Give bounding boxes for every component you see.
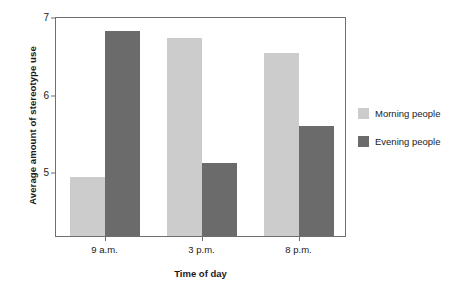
bar: [105, 31, 140, 236]
x-tick-label: 9 a.m.: [91, 245, 117, 255]
x-tick-label: 8 p.m.: [285, 245, 311, 255]
legend-item: Evening people: [358, 136, 458, 147]
y-tick-label: 6: [43, 91, 49, 101]
x-tick-mark: [299, 236, 300, 241]
y-tick-label: 7: [43, 13, 49, 23]
bar: [299, 126, 334, 236]
y-tick-label: 5: [43, 168, 49, 178]
legend-swatch-icon: [358, 136, 369, 147]
legend-swatch-icon: [358, 108, 369, 119]
x-tick-mark: [202, 236, 203, 241]
bar: [70, 177, 105, 236]
bars-layer: [56, 18, 345, 236]
bar: [202, 163, 237, 236]
plot-area: 765 9 a.m.3 p.m.8 p.m.: [55, 17, 346, 237]
legend-label: Evening people: [375, 137, 441, 147]
x-tick-mark: [105, 236, 106, 241]
x-tick-label: 3 p.m.: [188, 245, 214, 255]
bar: [167, 38, 202, 236]
bar: [264, 53, 299, 236]
y-axis-title: Average amount of stereotype use: [27, 16, 38, 236]
legend-label: Morning people: [375, 109, 441, 119]
x-axis-title: Time of day: [55, 268, 346, 279]
bar-chart-figure: Average amount of stereotype use 765 9 a…: [0, 0, 463, 290]
chart-legend: Morning peopleEvening people: [358, 108, 458, 164]
legend-item: Morning people: [358, 108, 458, 119]
